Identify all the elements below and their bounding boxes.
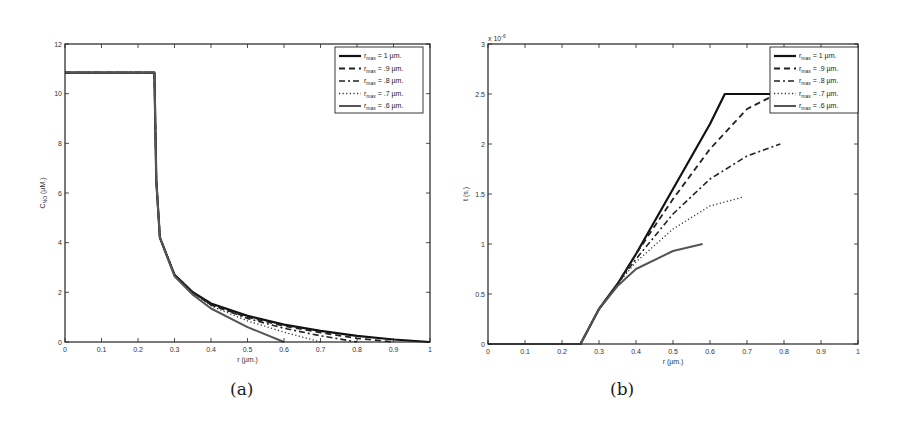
x-tick-label: 0.2	[133, 346, 143, 353]
series-line	[488, 94, 784, 344]
x-tick-label: 0.7	[742, 348, 752, 355]
y-tick-label: 10	[54, 90, 62, 97]
legend: rmax = 1 µm.rmax = .9 µm.rmax = .8 µm.rm…	[335, 47, 423, 113]
x-tick-label: 0.6	[705, 348, 715, 355]
series-line	[65, 73, 357, 342]
series-line	[488, 197, 743, 344]
x-tick-label: 1	[428, 346, 432, 353]
x-tick-label: 0	[63, 346, 67, 353]
x-tick-label: 0.8	[779, 348, 789, 355]
series-line	[488, 244, 703, 344]
y-tick-label: 8	[58, 140, 62, 147]
panel-label-a: (a)	[230, 379, 253, 399]
chart-panel-a: 00.10.20.30.40.50.60.70.80.91024681012r …	[39, 41, 432, 365]
x-tick-label: 0.5	[668, 348, 678, 355]
x-tick-label: 1	[856, 348, 860, 355]
y-tick-label: 1.5	[475, 191, 485, 198]
y-tick-label: 2	[58, 289, 62, 296]
series-line	[65, 73, 284, 342]
y-axis-label: t (s.)	[462, 187, 470, 201]
x-tick-label: 0.9	[389, 346, 399, 353]
x-tick-label: 0.2	[557, 348, 567, 355]
x-tick-label: 0.1	[520, 348, 530, 355]
y-tick-label: 2.5	[475, 91, 485, 98]
x-tick-label: 0.7	[316, 346, 326, 353]
y-axis-exponent: x 10-6	[488, 33, 506, 42]
x-tick-label: 0.1	[97, 346, 107, 353]
y-tick-label: 4	[58, 239, 62, 246]
x-axis-label: r (µm.)	[663, 358, 684, 366]
series-line	[488, 144, 780, 344]
y-tick-label: 3	[481, 41, 485, 48]
x-tick-label: 0.8	[352, 346, 362, 353]
panel-label-b: (b)	[610, 379, 634, 399]
y-tick-label: 0.5	[475, 291, 485, 298]
legend: rmax = 1 µm.rmax = .9 µm.rmax = .8 µm.rm…	[770, 47, 858, 113]
x-tick-label: 0.4	[631, 348, 641, 355]
x-tick-label: 0.4	[206, 346, 216, 353]
x-tick-label: 0.6	[279, 346, 289, 353]
y-tick-label: 6	[58, 190, 62, 197]
x-tick-label: 0.9	[816, 348, 826, 355]
y-tick-label: 0	[481, 341, 485, 348]
x-tick-label: 0.5	[243, 346, 253, 353]
x-tick-label: 0.3	[594, 348, 604, 355]
x-tick-label: 0	[486, 348, 490, 355]
chart-panel-b: 00.10.20.30.40.50.60.70.80.9100.511.522.…	[462, 33, 860, 366]
y-tick-label: 2	[481, 141, 485, 148]
series-line	[65, 73, 321, 342]
x-axis-label: r (µm.)	[237, 356, 258, 364]
figure: 00.10.20.30.40.50.60.70.80.91024681012r …	[0, 0, 898, 427]
y-tick-label: 12	[54, 41, 62, 48]
y-tick-label: 1	[481, 241, 485, 248]
x-tick-label: 0.3	[170, 346, 180, 353]
y-tick-label: 0	[58, 339, 62, 346]
series-line	[488, 94, 777, 344]
y-axis-label: CNO (µM.)	[39, 178, 48, 209]
